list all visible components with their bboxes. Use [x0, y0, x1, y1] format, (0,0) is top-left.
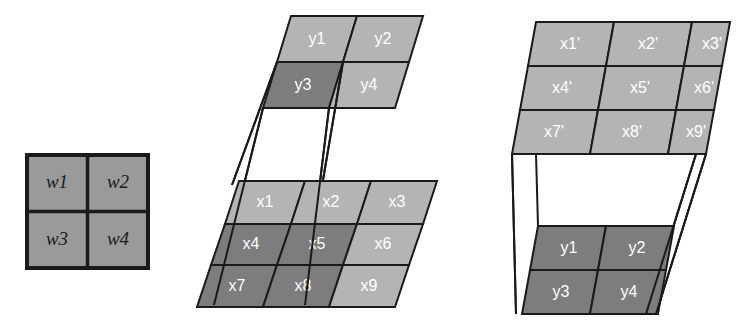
right-connector-line-2	[536, 154, 538, 226]
label-x1: x1	[257, 193, 274, 210]
right-panel: x1' x2' x3' x4' x5' x6' x7' x8' x9'	[512, 22, 730, 314]
kernel-cell-w3: w3	[46, 228, 68, 249]
label-x9-prime: x9'	[686, 123, 706, 140]
right-y-output-grid: y1 y2 y3 y4	[522, 226, 674, 314]
weight-kernel-panel: w1 w2 w3 w4	[27, 155, 148, 268]
label-x7: x7	[229, 277, 246, 294]
label-x2-prime: x2'	[638, 35, 658, 52]
label-y1: y1	[309, 30, 326, 47]
label-y3-right: y3	[553, 283, 570, 300]
label-y4-right: y4	[621, 283, 638, 300]
label-x2: x2	[323, 193, 340, 210]
label-y1-right: y1	[561, 239, 578, 256]
label-x5-prime: x5'	[630, 79, 650, 96]
label-x1-prime: x1'	[560, 35, 580, 52]
label-x4-prime: x4'	[552, 79, 572, 96]
label-x6-prime: x6'	[694, 79, 714, 96]
right-x-prime-grid: x1' x2' x3' x4' x5' x6' x7' x8' x9'	[512, 22, 730, 154]
label-x9: x9	[361, 277, 378, 294]
label-x7-prime: x7'	[544, 123, 564, 140]
label-x4: x4	[243, 235, 260, 252]
label-y2: y2	[375, 30, 392, 47]
kernel-cell-w4: w4	[107, 228, 130, 249]
middle-panel: y1 y2 y3 y4	[197, 16, 437, 307]
label-y4: y4	[361, 76, 378, 93]
diagram-canvas: w1 w2 w3 w4 y1 y2 y3 y4	[0, 0, 744, 329]
label-y3: y3	[295, 76, 312, 93]
label-y2-right: y2	[629, 239, 646, 256]
kernel-cell-w2: w2	[107, 171, 130, 192]
label-x3-prime: x3'	[702, 35, 722, 52]
label-x8-prime: x8'	[622, 123, 642, 140]
kernel-cell-w1: w1	[46, 171, 68, 192]
label-x3: x3	[389, 193, 406, 210]
right-connector-overlay-1	[512, 154, 516, 314]
label-x6: x6	[375, 235, 392, 252]
connector-overlay-1	[232, 62, 277, 185]
